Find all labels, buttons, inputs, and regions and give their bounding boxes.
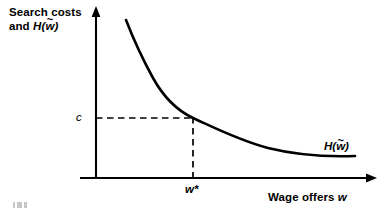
curve-label-paren-close: ) bbox=[345, 140, 349, 152]
h-curve bbox=[126, 20, 355, 156]
tilde-accent-icon: ~ bbox=[336, 134, 345, 147]
y-axis-title: Search costs and H(~w) bbox=[9, 6, 82, 33]
x-axis bbox=[80, 173, 377, 182]
tilde-accent-icon: ~ bbox=[45, 13, 54, 26]
search-cost-figure: Search costs and H(~w) c w* Wage offers … bbox=[0, 0, 381, 212]
y-axis bbox=[92, 6, 101, 178]
y-axis-title-paren-close: ) bbox=[54, 20, 58, 32]
y-tick-label-c: c bbox=[76, 111, 82, 125]
x-axis-title-prefix: Wage offers bbox=[268, 191, 338, 203]
curve-label: H(~w) bbox=[324, 140, 349, 154]
y-axis-arrowhead bbox=[92, 6, 101, 17]
y-axis-title-prefix: and bbox=[9, 20, 33, 32]
x-axis-title: Wage offers w bbox=[268, 191, 347, 205]
y-axis-title-line2: and H(~w) bbox=[9, 20, 82, 34]
cropped-edge-artifact bbox=[13, 202, 27, 208]
x-axis-arrowhead bbox=[366, 173, 377, 182]
y-axis-title-arg: ~w bbox=[45, 20, 54, 34]
x-tick-label-wstar: w* bbox=[185, 183, 198, 197]
x-axis-title-var: w bbox=[338, 191, 347, 203]
curve-label-arg: ~w bbox=[336, 140, 345, 154]
